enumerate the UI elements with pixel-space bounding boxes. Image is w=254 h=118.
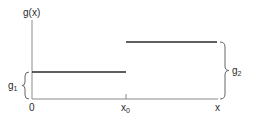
g2-label: g2: [232, 65, 242, 77]
step-function-diagram: g(x) 0 x0 x g1 g2: [0, 0, 254, 118]
y-axis-label: g(x): [23, 7, 40, 18]
g1-label: g1: [8, 80, 18, 92]
x-axis-label: x: [215, 102, 220, 113]
brace-g2: [220, 42, 229, 99]
breakpoint-label: x0: [121, 102, 130, 114]
brace-g1: [22, 72, 29, 99]
origin-label: 0: [29, 102, 35, 113]
